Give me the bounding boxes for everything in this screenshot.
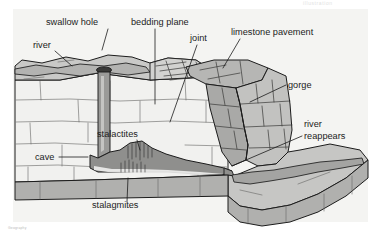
- label-river-reappears-line1: river: [304, 119, 322, 129]
- label-cave: cave: [35, 152, 54, 162]
- label-stalactites: stalactites: [97, 129, 138, 139]
- label-swallow-hole: swallow hole: [46, 17, 98, 27]
- label-gorge: gorge: [288, 80, 312, 90]
- label-limestone-pavement: limestone pavement: [231, 27, 314, 37]
- figure-watermark: illustration: [303, 0, 333, 6]
- label-river: river: [33, 40, 51, 50]
- karst-landscape-diagram: swallow hole river bedding plane joint l…: [0, 0, 381, 238]
- river-channel: [15, 63, 150, 76]
- figure-caption: Geography: [8, 226, 27, 230]
- label-river-reappears-line2: reappears: [304, 131, 346, 141]
- label-stalagmites: stalagmites: [92, 200, 139, 210]
- label-joint: joint: [189, 33, 207, 43]
- label-bedding-plane: bedding plane: [131, 17, 189, 27]
- shaft-highlight: [101, 76, 104, 152]
- diagram-page: swallow hole river bedding plane joint l…: [0, 0, 381, 238]
